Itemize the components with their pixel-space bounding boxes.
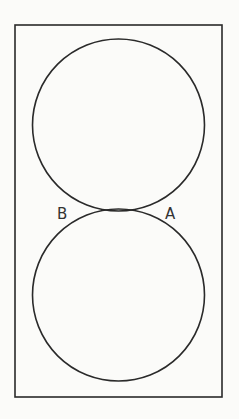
point-label-b: B (57, 205, 67, 223)
bottom-circle (33, 209, 205, 381)
point-label-a: A (165, 205, 176, 223)
top-circle (33, 39, 205, 211)
diagram-canvas: B A (0, 0, 239, 419)
